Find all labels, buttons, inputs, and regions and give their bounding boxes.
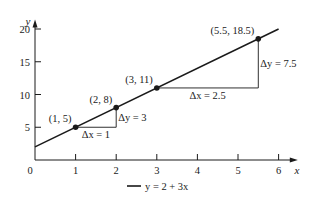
data-point-label: (3, 11) bbox=[125, 74, 153, 86]
y-axis-label: y bbox=[25, 15, 31, 27]
legend-label: y = 2 + 3x bbox=[145, 181, 189, 192]
x-axis-label: x bbox=[293, 164, 299, 176]
x-tick-label: 3 bbox=[154, 165, 159, 176]
points-layer: (1, 5)(2, 8)(3, 11)(5.5, 18.5) bbox=[49, 25, 261, 130]
data-point bbox=[255, 36, 261, 42]
delta-y-label: Δy = 7.5 bbox=[260, 58, 296, 69]
delta-y-label: Δy = 3 bbox=[118, 112, 146, 123]
data-point-label: (1, 5) bbox=[49, 113, 72, 125]
data-point-label: (5.5, 18.5) bbox=[211, 25, 255, 37]
data-point bbox=[113, 105, 119, 111]
x-axis-arrow bbox=[290, 158, 298, 163]
origin-label: 0 bbox=[27, 165, 32, 176]
x-tick-label: 5 bbox=[235, 165, 240, 176]
y-tick-label: 10 bbox=[20, 90, 31, 101]
delta-x-label: Δx = 1 bbox=[82, 129, 110, 140]
legend: y = 2 + 3x bbox=[127, 181, 189, 192]
delta-annotations: Δx = 1Δy = 3Δx = 2.5Δy = 7.5 bbox=[76, 39, 297, 140]
x-tick-label: 2 bbox=[114, 165, 119, 176]
data-point bbox=[73, 124, 79, 130]
chart: 12345605101520xy Δx = 1Δy = 3Δx = 2.5Δy … bbox=[0, 0, 322, 203]
x-tick-label: 4 bbox=[195, 165, 201, 176]
delta-x-label: Δx = 2.5 bbox=[189, 90, 225, 101]
y-axis-arrow bbox=[33, 19, 38, 27]
x-tick-label: 6 bbox=[276, 165, 281, 176]
y-tick-label: 15 bbox=[20, 57, 31, 68]
data-point bbox=[154, 85, 160, 91]
data-point-label: (2, 8) bbox=[89, 94, 112, 106]
y-tick-label: 5 bbox=[25, 122, 30, 133]
x-tick-label: 1 bbox=[73, 165, 78, 176]
